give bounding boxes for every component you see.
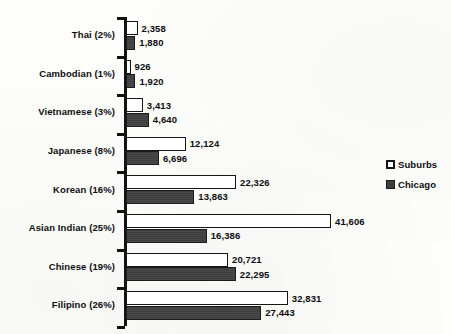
bar-value-label: 926: [135, 61, 151, 72]
axis-tick: [117, 249, 125, 252]
axis-tick: [117, 210, 125, 213]
bar-value-label: 2,358: [142, 23, 166, 34]
bar-chicago: [126, 151, 159, 165]
bar-suburbs: [126, 253, 228, 267]
axis-tick: [117, 326, 125, 329]
bar-chicago: [126, 229, 207, 243]
axis-tick: [117, 17, 125, 20]
axis-tick: [117, 94, 125, 97]
bar-suburbs: [126, 98, 143, 112]
bar-chicago: [126, 190, 194, 204]
bar-suburbs: [126, 214, 331, 228]
legend-item-label: Chicago: [398, 179, 436, 190]
bar-suburbs: [126, 175, 236, 189]
category-label: Cambodian (1%): [39, 68, 115, 79]
bar-suburbs: [126, 137, 186, 151]
bar-value-label: 22,326: [240, 177, 270, 188]
axis-tick: [117, 133, 125, 136]
bar-chicago: [126, 74, 135, 88]
legend-item-label: Suburbs: [398, 159, 437, 170]
bar-value-label: 41,606: [335, 216, 365, 227]
axis-tick: [117, 287, 125, 290]
bar-chicago: [126, 36, 135, 50]
bar-value-label: 32,831: [292, 293, 322, 304]
category-label: Asian Indian (25%): [29, 222, 115, 233]
bar-value-label: 22,295: [240, 269, 270, 280]
category-label: Vietnamese (3%): [38, 106, 115, 117]
bar-value-label: 13,863: [198, 191, 228, 202]
bar-value-label: 12,124: [190, 138, 220, 149]
bar-value-label: 16,386: [211, 230, 241, 241]
category-label: Chinese (19%): [49, 261, 115, 272]
bar-value-label: 3,413: [147, 100, 171, 111]
bar-chart-figure: Thai (2%)2,3581,880Cambodian (1%)9261,92…: [0, 0, 451, 334]
axis-tick: [117, 171, 125, 174]
bar-value-label: 6,696: [163, 153, 187, 164]
legend-item-suburbs[interactable]: Suburbs: [386, 154, 437, 174]
bar-value-label: 1,880: [139, 37, 163, 48]
bar-value-label: 20,721: [232, 254, 262, 265]
bar-suburbs: [126, 60, 131, 74]
category-label: Thai (2%): [72, 29, 115, 40]
chart-legend: Suburbs Chicago: [386, 154, 437, 194]
category-label: Korean (16%): [53, 184, 115, 195]
filled-square-marker-icon: [386, 180, 395, 189]
bar-value-label: 4,640: [153, 114, 177, 125]
legend-item-chicago[interactable]: Chicago: [386, 174, 437, 194]
bar-chicago: [126, 267, 236, 281]
bar-suburbs: [126, 291, 288, 305]
bar-value-label: 1,920: [139, 76, 163, 87]
bar-chicago: [126, 306, 261, 320]
hollow-square-marker-icon: [386, 160, 395, 169]
bar-suburbs: [126, 21, 138, 35]
category-label: Japanese (8%): [48, 145, 115, 156]
bar-chicago: [126, 113, 149, 127]
axis-tick: [117, 56, 125, 59]
plot-area: Thai (2%)2,3581,880Cambodian (1%)9261,92…: [0, 0, 451, 334]
category-label: Filipino (26%): [52, 299, 115, 310]
bar-value-label: 27,443: [265, 307, 295, 318]
